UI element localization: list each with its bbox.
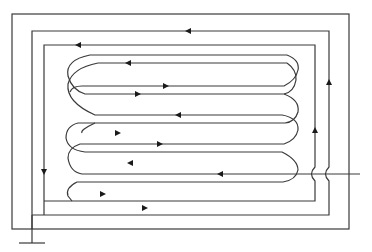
loop-inner-return xyxy=(44,45,315,215)
coil-schematic xyxy=(0,0,372,252)
arrow-left-icon xyxy=(217,171,223,177)
loop-outer-return xyxy=(32,31,329,229)
arrow-right-icon xyxy=(135,91,141,97)
arrow-up-icon xyxy=(326,79,332,85)
arrow-up-icon xyxy=(312,127,318,133)
arrow-left-icon xyxy=(125,60,131,66)
coil-track-b xyxy=(68,63,298,174)
arrow-right-icon xyxy=(115,130,121,136)
arrow-left-icon xyxy=(175,112,181,118)
arrow-right-icon xyxy=(157,141,163,147)
coil-track-e xyxy=(82,123,95,133)
coil-track-a xyxy=(66,55,298,201)
arrow-right-icon xyxy=(100,191,106,197)
arrow-left-icon xyxy=(127,160,133,166)
coil-track-c xyxy=(70,55,298,92)
arrow-left-icon xyxy=(75,42,81,48)
arrow-left-icon xyxy=(185,28,191,34)
outer-frame xyxy=(12,14,349,229)
arrow-down-icon xyxy=(41,169,47,175)
arrow-right-icon xyxy=(163,83,169,89)
arrow-right-icon xyxy=(142,205,148,211)
